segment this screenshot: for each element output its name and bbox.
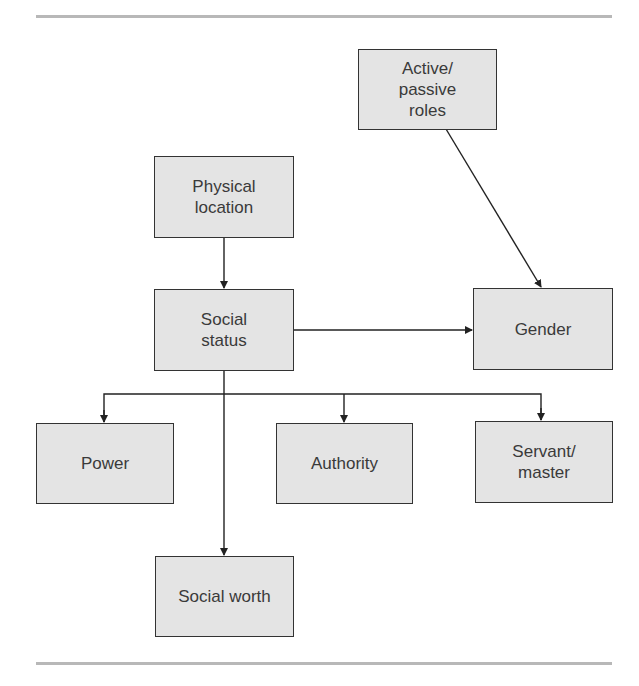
node-label: Physical location: [192, 176, 255, 218]
node-label: Authority: [311, 453, 378, 474]
node-power: Power: [36, 423, 174, 504]
node-label: Active/ passive roles: [399, 58, 457, 121]
node-physical-location: Physical location: [154, 156, 294, 238]
edge-active-to-gender: [446, 129, 541, 287]
node-label: Gender: [515, 319, 572, 340]
node-servant-master: Servant/ master: [475, 421, 613, 503]
node-social-worth: Social worth: [155, 556, 294, 637]
node-active-passive-roles: Active/ passive roles: [358, 49, 497, 130]
node-label: Social worth: [178, 586, 271, 607]
node-social-status: Social status: [154, 289, 294, 371]
node-authority: Authority: [276, 423, 413, 504]
node-label: Servant/ master: [512, 441, 575, 483]
node-label: Social status: [201, 309, 247, 351]
node-gender: Gender: [473, 288, 613, 370]
edge-branch-bar: [104, 394, 541, 422]
node-label: Power: [81, 453, 129, 474]
